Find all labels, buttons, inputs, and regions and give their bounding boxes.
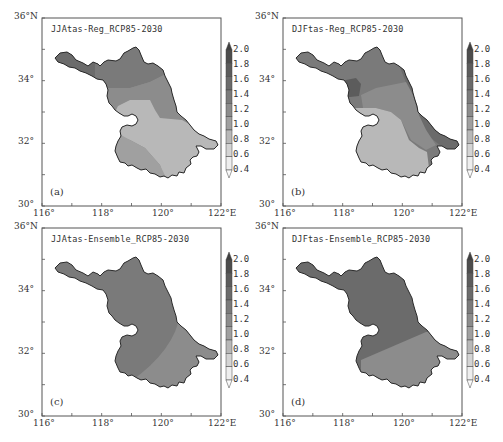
x-tick-label: 116°: [33, 418, 55, 428]
map-canvas: [241, 0, 503, 232]
panel-label: (a): [50, 186, 64, 197]
x-tick-label: 122°E: [449, 418, 477, 428]
map-panel-a: JJAtas-Reg_RCP85-2030 (a) 36°N 34° 32° 3…: [0, 0, 262, 232]
colorbar-label: 1.0: [474, 329, 490, 339]
colorbar-label: 1.4: [474, 89, 490, 99]
y-tick-label: 30°: [259, 199, 275, 209]
colorbar-label: 2.0: [474, 44, 490, 54]
map-canvas: [241, 210, 503, 442]
colorbar-label: 1.6: [474, 74, 490, 84]
panel-label: (b): [291, 186, 305, 197]
y-tick-label: 30°: [18, 409, 34, 419]
y-tick-label: 30°: [18, 199, 34, 209]
panel-title: JJAtas-Reg_RCP85-2030: [51, 24, 163, 34]
colorbar-label: 0.6: [474, 149, 490, 159]
y-tick-label: 34°: [18, 284, 34, 294]
colorbar-label: 1.2: [474, 104, 490, 114]
y-tick-label: 32°: [259, 136, 275, 146]
x-tick-label: 120°: [393, 418, 415, 428]
colorbar: [467, 42, 473, 178]
y-tick-label: 32°: [18, 346, 34, 356]
colorbar-label: 1.2: [474, 314, 490, 324]
y-tick-label: 32°: [259, 346, 275, 356]
colorbar: [226, 42, 232, 178]
panel-title: DJFtas-Ensemble_RCP85-2030: [292, 234, 430, 244]
x-tick-label: 122°E: [208, 418, 236, 428]
y-tick-label: 30°: [259, 409, 275, 419]
colorbar-label: 0.8: [474, 134, 490, 144]
y-tick-label: 34°: [259, 284, 275, 294]
x-tick-label: 118°: [92, 418, 114, 428]
panel-label: (c): [50, 396, 63, 407]
y-tick-label: 36°N: [255, 11, 279, 21]
panel-title: JJAtas-Ensemble_RCP85-2030: [51, 234, 189, 244]
colorbar: [226, 252, 232, 388]
colorbar-label: 1.8: [474, 269, 490, 279]
map-canvas: [0, 210, 262, 442]
colorbar-label: 0.4: [474, 164, 490, 174]
y-tick-label: 36°N: [14, 11, 38, 21]
colorbar-label: 0.4: [474, 374, 490, 384]
y-tick-label: 36°N: [255, 221, 279, 231]
map-canvas: [0, 0, 262, 232]
colorbar-label: 1.0: [474, 119, 490, 129]
colorbar-label: 1.8: [474, 59, 490, 69]
y-tick-label: 36°N: [14, 221, 38, 231]
colorbar-label: 0.6: [474, 359, 490, 369]
colorbar-label: 0.8: [474, 344, 490, 354]
colorbar-label: 1.6: [474, 284, 490, 294]
panel-label: (d): [291, 396, 305, 407]
x-tick-label: 116°: [274, 418, 296, 428]
panel-title: DJFtas-Reg_RCP85-2030: [292, 24, 404, 34]
y-tick-label: 34°: [259, 74, 275, 84]
colorbar: [467, 252, 473, 388]
y-tick-label: 32°: [18, 136, 34, 146]
map-panel-d: DJFtas-Ensemble_RCP85-2030 (d) 36°N 34° …: [241, 210, 503, 442]
x-tick-label: 118°: [333, 418, 355, 428]
y-tick-label: 34°: [18, 74, 34, 84]
colorbar-label: 2.0: [474, 254, 490, 264]
map-panel-c: JJAtas-Ensemble_RCP85-2030 (c) 36°N 34° …: [0, 210, 262, 442]
x-tick-label: 120°: [152, 418, 174, 428]
map-panel-b: DJFtas-Reg_RCP85-2030 (b) 36°N 34° 32° 3…: [241, 0, 503, 232]
colorbar-label: 1.4: [474, 299, 490, 309]
